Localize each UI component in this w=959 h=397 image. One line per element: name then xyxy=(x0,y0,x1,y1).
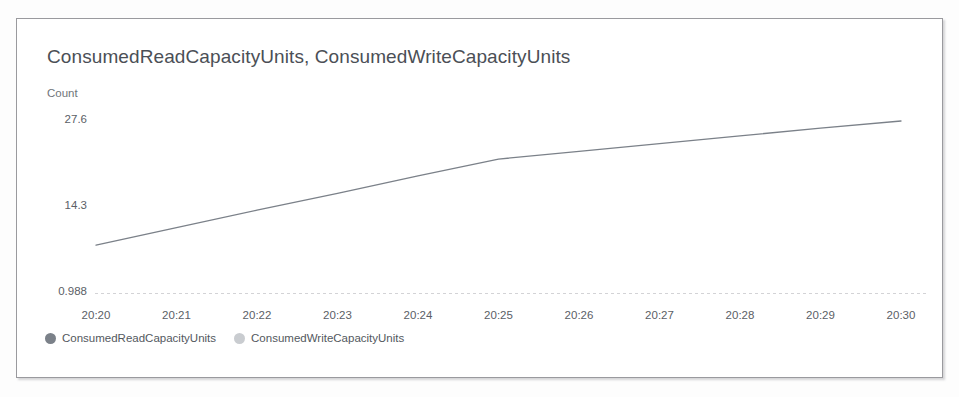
legend-circle-icon xyxy=(45,333,56,344)
plot-area: 0.98814.327.6 20:2020:2120:2220:2320:242… xyxy=(17,19,944,379)
series-lines xyxy=(17,19,944,379)
legend-item-label: ConsumedReadCapacityUnits xyxy=(62,332,216,344)
line-consumedreadcapacityunits xyxy=(96,121,901,245)
chart-legend: ConsumedReadCapacityUnitsConsumedWriteCa… xyxy=(45,332,404,344)
legend-item[interactable]: ConsumedReadCapacityUnits xyxy=(45,332,216,344)
legend-item[interactable]: ConsumedWriteCapacityUnits xyxy=(234,332,404,344)
legend-item-label: ConsumedWriteCapacityUnits xyxy=(251,332,404,344)
metric-chart-card: ConsumedReadCapacityUnits, ConsumedWrite… xyxy=(16,18,943,378)
legend-circle-icon xyxy=(234,333,245,344)
screenshot-canvas: ConsumedReadCapacityUnits, ConsumedWrite… xyxy=(0,0,959,397)
